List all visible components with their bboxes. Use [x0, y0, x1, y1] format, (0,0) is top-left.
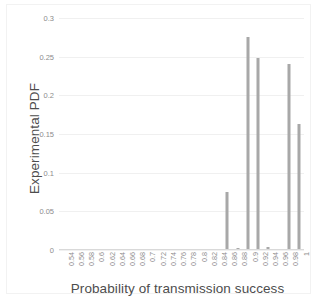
x-tick-label: 0.98	[291, 252, 300, 266]
y-tick-label: 0.15	[39, 130, 54, 139]
x-tick-label: 0.82	[210, 252, 219, 266]
x-tick-label: 0.54	[67, 252, 76, 266]
x-tick-label: 0.68	[138, 252, 147, 266]
x-tick-label: 0.78	[189, 252, 198, 266]
x-tick-label: 0.64	[118, 252, 127, 266]
bar-slot	[182, 18, 192, 250]
x-tick-label: 0.9	[251, 252, 260, 262]
x-tick-label: 0.96	[281, 252, 290, 266]
bar-slot	[141, 18, 151, 250]
bar-slot	[69, 18, 79, 250]
y-tick-label: 0	[50, 246, 54, 255]
x-tick-label: 1	[302, 252, 311, 256]
bar-slot	[59, 18, 69, 250]
x-tick-label: 0.72	[159, 252, 168, 266]
x-tick-label: 0.62	[108, 252, 117, 266]
bar-slot	[130, 18, 140, 250]
y-tick-label: 0.2	[44, 91, 54, 100]
x-tick-label: 0.6	[97, 252, 106, 262]
x-tick-label: 0.86	[230, 252, 239, 266]
bar-slot	[202, 18, 212, 250]
bar-slot	[294, 18, 304, 250]
x-tick-label: 0.8	[200, 252, 209, 262]
bar	[297, 124, 300, 250]
bar-slot	[90, 18, 100, 250]
bar-slot	[273, 18, 283, 250]
x-axis-ticks: 0.540.560.580.60.620.640.660.680.70.720.…	[59, 250, 304, 284]
x-tick-label: 0.74	[169, 252, 178, 266]
x-tick-label: 0.56	[77, 252, 86, 266]
y-tick-label: 0.1	[44, 168, 54, 177]
x-tick-label: 0.94	[271, 252, 280, 266]
bar-slot	[120, 18, 130, 250]
y-tick-label: 0.25	[39, 52, 54, 61]
bar-slot	[284, 18, 294, 250]
bar-slot	[161, 18, 171, 250]
bar	[287, 64, 290, 250]
x-tick-label: 0.58	[87, 252, 96, 266]
bar-slot	[243, 18, 253, 250]
bar-slot	[100, 18, 110, 250]
bar	[226, 192, 229, 250]
chart-figure: Experimental PDF 00.050.10.150.20.250.3 …	[0, 0, 323, 306]
x-tick-label: 0.7	[148, 252, 157, 262]
bar-slot	[263, 18, 273, 250]
bar-slot	[253, 18, 263, 250]
y-tick-label: 0.3	[44, 14, 54, 23]
bar-slot	[233, 18, 243, 250]
y-axis-title: Experimental PDF	[27, 54, 42, 224]
x-tick-label: 0.88	[240, 252, 249, 266]
bar-slot	[151, 18, 161, 250]
bar-slot	[222, 18, 232, 250]
x-tick-label: 0.76	[179, 252, 188, 266]
x-tick-label: 0.66	[128, 252, 137, 266]
x-axis-title: Probability of transmission success	[40, 281, 315, 296]
bar-slot	[110, 18, 120, 250]
bar-slot	[192, 18, 202, 250]
bar-slot	[171, 18, 181, 250]
bar-slot	[212, 18, 222, 250]
plot-area: 00.050.10.150.20.250.3 0.540.560.580.60.…	[59, 18, 304, 250]
x-tick-label: 0.92	[261, 252, 270, 266]
bar	[257, 58, 260, 250]
bar-slot	[79, 18, 89, 250]
y-tick-label: 0.05	[39, 207, 54, 216]
x-tick-label: 0.84	[220, 252, 229, 266]
bar	[246, 37, 249, 250]
